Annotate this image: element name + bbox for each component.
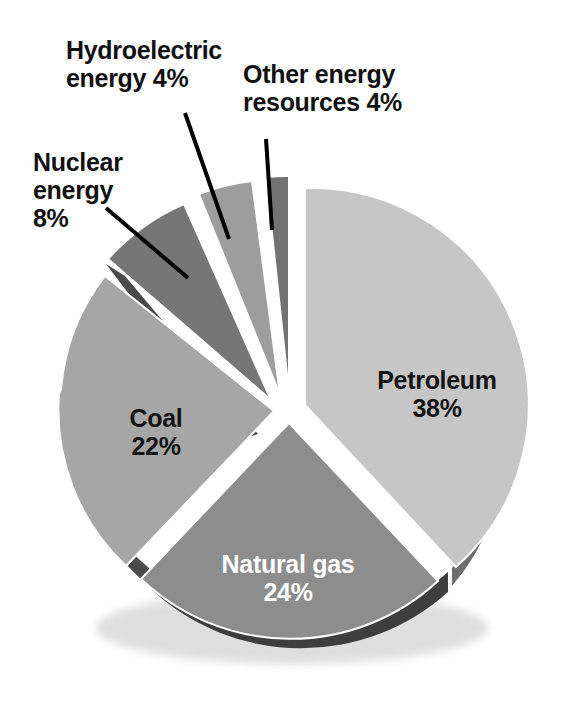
- label-petroleum: Petroleum 38%: [352, 366, 522, 422]
- label-hydroelectric-line1: Hydroelectric: [66, 36, 222, 64]
- pie-chart-figure: Hydroelectric energy 4% Other energy res…: [0, 0, 563, 727]
- label-petroleum-name: Petroleum: [377, 366, 497, 394]
- label-other-energy-line1: Other energy: [243, 60, 395, 88]
- label-hydroelectric-line2: energy 4%: [66, 64, 188, 92]
- label-coal-name: Coal: [130, 404, 183, 432]
- label-natural-gas: Natural gas 24%: [188, 550, 388, 606]
- label-coal: Coal 22%: [96, 404, 216, 460]
- label-coal-value: 22%: [96, 432, 216, 460]
- label-natural-gas-value: 24%: [188, 578, 388, 606]
- label-nuclear-line2: energy: [33, 176, 113, 204]
- label-other-energy: Other energy resources 4%: [243, 60, 443, 116]
- label-nuclear-line1: Nuclear: [33, 148, 123, 176]
- label-nuclear: Nuclear energy 8%: [33, 148, 183, 232]
- label-nuclear-line3: 8%: [33, 204, 69, 232]
- label-natural-gas-name: Natural gas: [222, 550, 355, 578]
- label-petroleum-value: 38%: [352, 394, 522, 422]
- label-other-energy-line2: resources 4%: [243, 88, 402, 116]
